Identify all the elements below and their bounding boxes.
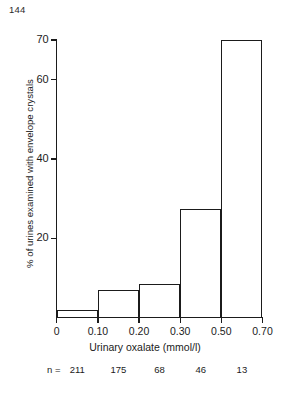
sample-size-value: 175 [111, 364, 127, 375]
sample-size-row: n = 211175684613 [0, 364, 290, 380]
x-axis-tick [221, 317, 222, 323]
x-axis-tick-label: 0.70 [252, 325, 272, 337]
x-axis-tick-label: 0.20 [129, 325, 149, 337]
sample-size-value: 13 [237, 364, 248, 375]
sample-size-value: 46 [195, 364, 206, 375]
y-axis-tick [51, 79, 57, 80]
x-axis-tick-label: 0.50 [211, 325, 231, 337]
sample-size-value: 211 [70, 364, 85, 375]
y-axis-line [56, 39, 57, 318]
x-axis-tick-label: 0.30 [170, 325, 190, 337]
x-axis-title: Urinary oxalate (mmol/l) [0, 341, 290, 353]
x-axis-tick [97, 317, 98, 323]
bar [180, 209, 221, 318]
x-axis-tick [138, 317, 139, 323]
y-axis-tick [51, 39, 57, 40]
y-axis-tick [51, 158, 57, 159]
y-axis-title: % of urines examined with envelope cryst… [24, 59, 35, 289]
bar [57, 310, 98, 318]
x-axis-tick-label: 0 [54, 325, 60, 337]
x-axis-tick [180, 317, 181, 323]
x-axis-tick [56, 317, 57, 323]
bar [98, 290, 139, 318]
y-axis-tick [51, 238, 57, 239]
y-axis-tick-label: 70 [9, 33, 49, 45]
chart-figure: 20406070 00.100.200.300.500.70 % of urin… [0, 0, 290, 395]
x-axis-tick-label: 0.10 [88, 325, 108, 337]
bar [139, 284, 180, 318]
x-axis-tick [262, 317, 263, 323]
sample-size-value: 68 [154, 364, 165, 375]
bar [221, 40, 262, 318]
sample-size-label: n = [47, 364, 60, 375]
